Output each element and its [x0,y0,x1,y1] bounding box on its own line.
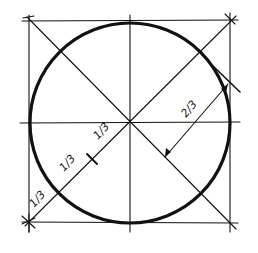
label-two-thirds: 2/3 [178,98,199,120]
circle-in-square-diagram: 2/3 1/3 1/3 1/3 [0,0,258,253]
label-one-third-middle: 1/3 [57,152,79,174]
label-one-third-upper: 1/3 [91,120,113,142]
